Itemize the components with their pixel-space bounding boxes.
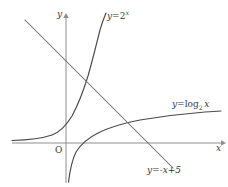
graph-canvas <box>0 0 228 187</box>
logarithmic-curve-label: y=log2 x <box>172 100 209 109</box>
y-axis-arrowhead <box>63 13 69 18</box>
logarithmic-label-argument: x <box>204 99 209 109</box>
exponential-label-exponent: x <box>125 9 129 17</box>
graph-figure: y=2x y=log2 x y=-x+5 y x O <box>0 0 228 187</box>
logarithmic-label-base: 2 <box>199 104 203 111</box>
linear-function-label: y=-x+5 <box>147 166 181 175</box>
exponential-curve-path <box>12 13 106 141</box>
x-axis-label: x <box>216 144 221 153</box>
exponential-curve-label: y=2x <box>107 12 129 21</box>
logarithmic-label-function: log <box>185 99 199 109</box>
exponential-label-prefix: y= <box>107 11 120 21</box>
origin-label: O <box>55 146 62 155</box>
logarithmic-curve-path <box>69 111 222 182</box>
logarithmic-label-prefix: y= <box>172 99 185 109</box>
y-axis-label: y <box>57 10 62 19</box>
x-axis-arrowhead <box>221 140 226 146</box>
linear-function-path <box>25 20 173 168</box>
